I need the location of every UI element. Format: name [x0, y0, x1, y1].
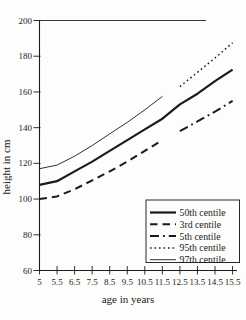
series-95th-centile [180, 43, 233, 87]
legend-label: 95th centile [180, 242, 227, 253]
x-tick-label: 5 [37, 277, 42, 287]
legend-label: 5th centile [180, 231, 222, 242]
y-axis-title: height in cm [0, 139, 12, 194]
series-5th-centile [180, 101, 233, 131]
series-50th-centile [40, 70, 233, 185]
y-tick-label: 80 [23, 230, 33, 240]
x-tick-label: 15.5 [225, 277, 241, 287]
x-tick-label: 12.5 [172, 277, 188, 287]
y-tick-label: 160 [19, 87, 33, 97]
x-tick-label: 9.5 [122, 277, 134, 287]
series-97th-centile [40, 96, 163, 168]
y-tick-label: 120 [19, 158, 33, 168]
x-tick-label: 14.5 [207, 277, 223, 287]
x-axis-title: age in years [102, 293, 155, 305]
y-tick-label: 100 [19, 194, 33, 204]
series-3rd-centile [40, 140, 163, 199]
x-tick-label: 6.5 [69, 277, 81, 287]
growth-centile-figure: 608010012014016018020055.56.57.58.59.510… [0, 0, 246, 320]
x-tick-label: 8.5 [104, 277, 116, 287]
centile-line-chart: 608010012014016018020055.56.57.58.59.510… [0, 0, 246, 320]
y-tick-label: 60 [23, 266, 33, 276]
y-tick-label: 180 [19, 51, 33, 61]
x-tick-label: 11.5 [155, 277, 171, 287]
x-tick-label: 5.5 [51, 277, 63, 287]
x-tick-label: 7.5 [87, 277, 99, 287]
y-tick-label: 140 [19, 123, 33, 133]
legend-label: 3rd centile [180, 219, 222, 230]
legend-label: 97th centile [180, 254, 227, 265]
y-tick-label: 200 [19, 16, 33, 26]
x-tick-label: 13.5 [190, 277, 206, 287]
legend-label: 50th centile [180, 207, 227, 218]
x-tick-label: 10.5 [137, 277, 153, 287]
